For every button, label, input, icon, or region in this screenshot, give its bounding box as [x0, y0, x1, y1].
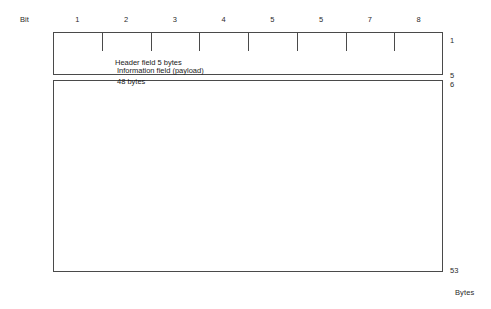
bit-separator-tick [346, 32, 347, 51]
bytes-axis-label: Bytes [455, 288, 474, 297]
byte-marker-end: 53 [450, 266, 458, 275]
bit-separator-tick [199, 32, 200, 51]
atm-cell-structure-diagram: Bit 1 2 3 4 5 5 7 8 Header field 5 bytes… [0, 0, 491, 309]
bit-number: 5 [248, 14, 297, 28]
bit-number: 5 [297, 14, 346, 28]
bit-number: 1 [53, 14, 102, 28]
bit-separator-tick [248, 32, 249, 51]
bit-separator-tick [151, 32, 152, 51]
bit-number: 3 [151, 14, 200, 28]
information-field-box [53, 80, 443, 272]
bit-number: 4 [199, 14, 248, 28]
bit-separator-tick [102, 32, 103, 51]
bit-separator-tick [297, 32, 298, 51]
byte-marker-header-end: 5 [450, 71, 454, 80]
byte-marker-start: 1 [450, 36, 454, 45]
cell-body: Header field 5 bytes Information field (… [53, 32, 443, 272]
bit-number: 8 [394, 14, 443, 28]
byte-marker-payload-start: 6 [450, 80, 454, 89]
bit-number: 7 [346, 14, 395, 28]
bit-number: 2 [102, 14, 151, 28]
information-field-label: Information field (payload) 48 bytes [117, 66, 204, 87]
bit-axis-label: Bit [20, 15, 29, 24]
bit-separator-tick [394, 32, 395, 51]
bit-scale: 1 2 3 4 5 5 7 8 [53, 14, 443, 28]
